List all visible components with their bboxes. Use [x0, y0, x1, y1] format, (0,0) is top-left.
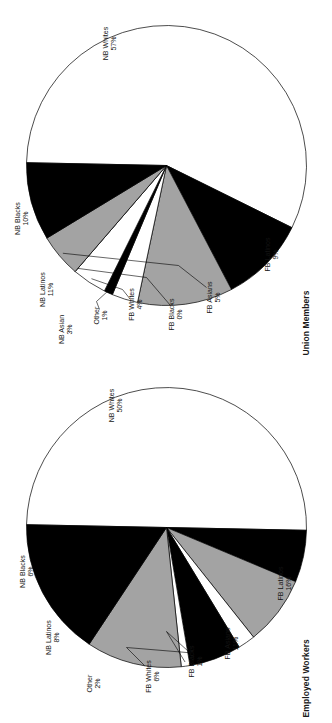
pie-slice-label-name: NB Whites: [108, 388, 115, 422]
pie-slice-label-value: 2%: [94, 674, 102, 692]
pie-slice-label-value: 50%: [116, 388, 124, 422]
pie-slice-label-value: 3%: [66, 314, 74, 343]
pie-slice-label: NB Blacks6%: [19, 555, 35, 588]
pie-slice-label-value: 4%: [136, 288, 144, 321]
pie-slice-label-name: Other: [86, 674, 93, 692]
chart-union-rotated-canvas: Union Members NB Whites57%NB Blacks10%NB…: [0, 0, 332, 361]
pie-slice-label: FB Asians11%: [224, 627, 240, 659]
pie-slice-label-value: 6%: [27, 555, 35, 588]
pie-slice-label-value: 6%: [153, 660, 161, 693]
pie-slice-label-name: Other: [93, 306, 100, 324]
pie-slice-label-name: FB Whites: [128, 288, 135, 321]
chart-union-members: Union Members NB Whites57%NB Blacks10%NB…: [0, 0, 332, 361]
pie-slice-label: FB Latinos9%: [264, 237, 280, 271]
pie-slice-label-value: 1%: [196, 645, 204, 677]
pie-slice-label: NB Blacks10%: [14, 202, 30, 235]
pie-slice-label-name: FB Blacks: [168, 298, 175, 330]
pie-slice-label-name: NB Whites: [102, 26, 109, 60]
pie-slice-label-name: NB Latinos: [45, 620, 52, 655]
pie-slice-label-value: 57%: [110, 26, 118, 60]
pie-slice: [26, 387, 306, 530]
pie-slice-label-name: FB Latinos: [277, 566, 284, 600]
pie-slice-label-value: 11%: [232, 627, 240, 659]
pie-slice-label: FB Blacks1%: [188, 645, 204, 677]
pie-slice-label-value: 10%: [22, 202, 30, 235]
pie-slice-label: FB Blacks0%: [168, 298, 184, 330]
pie-slice-label: FB Asians5%: [206, 281, 222, 313]
pie-slice-label-name: NB Latinos: [39, 272, 46, 307]
chart-employed-rotated-canvas: Employed Workers NB Whites50%NB Blacks6%…: [0, 362, 332, 723]
pie-slice-label-value: 5%: [214, 281, 222, 313]
pie-slice-label-name: FB Latinos: [264, 237, 271, 271]
pie-slice-label: NB Whites50%: [108, 388, 124, 422]
pie-slice-label-name: FB Blacks: [188, 645, 195, 677]
pie-slice-label-value: 1%: [101, 306, 109, 324]
pie-slice-label: NB Whites57%: [102, 26, 118, 60]
pie-slice-label: FB Whites4%: [128, 288, 144, 321]
pie-slice-label-name: NB Blacks: [14, 202, 21, 235]
figure-sheet: Union Members NB Whites57%NB Blacks10%NB…: [0, 0, 332, 723]
pie-slice-label-value: 11%: [47, 272, 55, 307]
pie-slice-label: NB Latinos11%: [39, 272, 55, 307]
pie-slice-label: NB Latinos8%: [45, 620, 61, 655]
pie-slice-label: Other2%: [86, 674, 102, 692]
pie-slice-label-value: 16%: [285, 566, 293, 600]
pie-slice-label-value: 9%: [272, 237, 280, 271]
pie-slice-label-name: NB Asian: [58, 314, 65, 343]
pie-slice-label-value: 0%: [176, 298, 184, 330]
pie-slice-label-name: FB Whites: [145, 660, 152, 693]
pie-slice-label-name: FB Asians: [224, 627, 231, 659]
pie-slice-label: FB Whites6%: [145, 660, 161, 693]
pie-employed: [0, 362, 332, 723]
pie-slice-label-name: FB Asians: [206, 281, 213, 313]
pie-employed-slices: [26, 387, 306, 667]
pie-slice-label-value: 8%: [53, 620, 61, 655]
chart-employed-workers: Employed Workers NB Whites50%NB Blacks6%…: [0, 362, 332, 723]
pie-slice-label: FB Latinos16%: [277, 566, 293, 600]
pie-slice-label: Other1%: [93, 306, 109, 324]
pie-slice-label-name: NB Blacks: [19, 555, 26, 588]
pie-slice-label: NB Asian3%: [58, 314, 74, 343]
